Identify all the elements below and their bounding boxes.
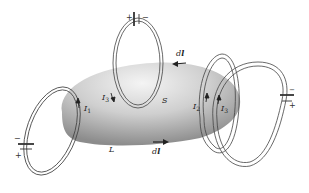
dl-label-bottom: dl <box>152 146 160 156</box>
battery-left-minus: − <box>14 134 21 143</box>
dl-label-top: dl <box>176 48 184 58</box>
battery-left <box>18 144 34 149</box>
surface-label: S <box>162 96 168 105</box>
battery-left-plus: + <box>15 151 22 160</box>
ampere-law-diagram: dl dl S L I1 I2 I3 I3 + − − + − + <box>0 0 309 193</box>
battery-top-minus: − <box>142 13 149 22</box>
curve-label: L <box>108 145 114 154</box>
battery-right-plus: + <box>289 101 296 110</box>
battery-right-minus: − <box>289 86 295 94</box>
battery-top-plus: + <box>126 13 133 22</box>
battery-top <box>134 12 139 26</box>
